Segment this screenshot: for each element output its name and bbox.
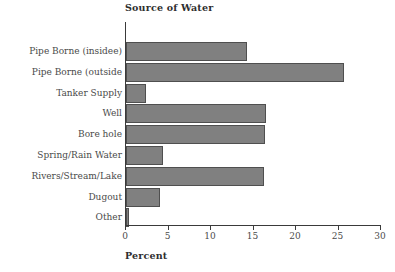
bars-layer [126, 22, 380, 225]
x-tick-mark [295, 226, 296, 230]
x-tick-label: 10 [195, 231, 225, 241]
bar-tanker-supply [126, 84, 146, 103]
y-axis-label: Pipe Borne (outside [2, 67, 122, 78]
x-tick-mark [210, 226, 211, 230]
x-tick-mark [168, 226, 169, 230]
x-tick-mark [253, 226, 254, 230]
x-axis-ticks: 051015202530 [125, 226, 383, 248]
bar-pipe-borne-outside [126, 63, 344, 82]
chart-title: Source of Water [125, 2, 213, 13]
y-axis-label: Well [2, 108, 122, 119]
x-tick-label: 5 [153, 231, 183, 241]
x-tick-label: 20 [280, 231, 310, 241]
x-tick-mark [338, 226, 339, 230]
x-tick-mark [380, 226, 381, 230]
x-axis-title: Percent [125, 250, 167, 261]
bar-pipe-borne-insidee [126, 42, 247, 61]
y-axis-label: Dugout [2, 192, 122, 203]
plot-area [125, 22, 380, 225]
bar-rivers-stream-lake [126, 167, 264, 186]
y-axis-label: Bore hole [2, 129, 122, 140]
y-axis-tick-labels: Pipe Borne (insidee)Pipe Borne (outsideT… [0, 22, 122, 225]
x-tick-label: 25 [323, 231, 353, 241]
y-axis-label: Tanker Supply [2, 88, 122, 99]
y-axis-label: Rivers/Stream/Lake [2, 171, 122, 182]
y-axis-label: Other [2, 212, 122, 223]
bar-spring-rain-water [126, 146, 163, 165]
bar-dugout [126, 188, 160, 207]
bar-bore-hole [126, 125, 265, 144]
x-tick-label: 30 [365, 231, 395, 241]
bar-well [126, 104, 266, 123]
x-tick-label: 15 [238, 231, 268, 241]
bar-chart: Source of Water Pipe Borne (insidee)Pipe… [0, 0, 395, 272]
x-tick-label: 0 [110, 231, 140, 241]
x-tick-mark [125, 226, 126, 230]
y-axis-label: Pipe Borne (insidee) [2, 46, 122, 57]
y-axis-label: Spring/Rain Water [2, 150, 122, 161]
